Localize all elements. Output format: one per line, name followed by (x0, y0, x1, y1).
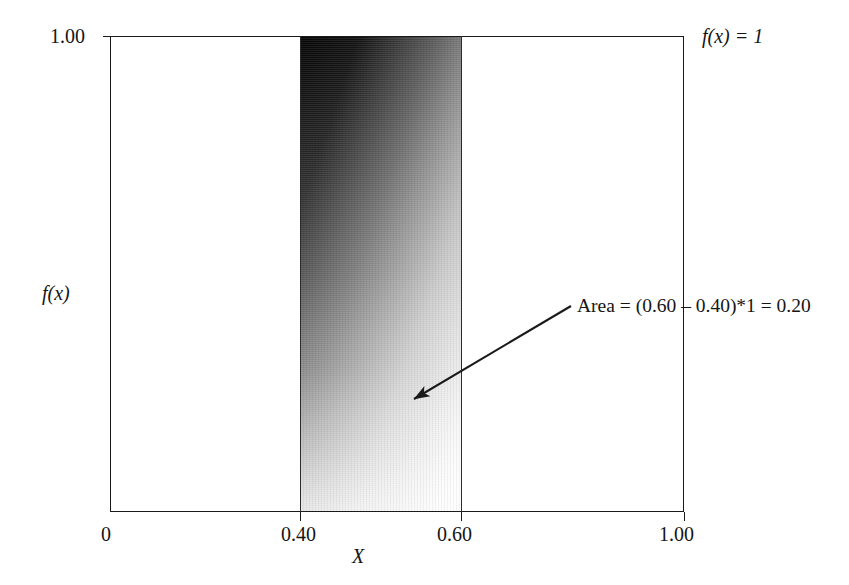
y-axis-max-label: 1.00 (50, 26, 85, 46)
x-tick-040 (300, 512, 301, 521)
x-tick-100 (684, 512, 685, 521)
x-tick-label-100: 1.00 (659, 524, 694, 544)
x-tick-label-060: 0.60 (437, 524, 472, 544)
shaded-area-left-edge (300, 36, 301, 513)
x-tick-label-0: 0 (101, 524, 111, 544)
curve-label-fx-equals-1: f(x) = 1 (702, 26, 763, 46)
shaded-area-right-edge (461, 36, 462, 513)
shaded-area-region (300, 37, 461, 511)
x-axis-title: X (352, 546, 364, 566)
area-annotation-text: Area = (0.60 – 0.40)*1 = 0.20 (577, 296, 811, 316)
y-tick-100 (103, 36, 111, 37)
x-tick-060 (461, 512, 462, 521)
y-axis-title: f(x) (42, 283, 70, 303)
x-tick-label-040: 0.40 (281, 524, 316, 544)
uniform-distribution-figure: 1.00 f(x) f(x) = 1 0 0.40 0.60 1.00 X Ar… (0, 0, 849, 585)
